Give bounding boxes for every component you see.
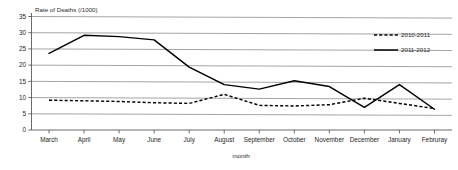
x-tick-label: June [147,136,161,143]
x-tick-label: November [315,136,345,143]
x-tick-label: October [283,136,307,143]
y-tick-label: 25 [19,45,27,52]
series-line-2010-2011 [49,94,434,108]
gridline [32,65,453,67]
x-axis-title: month [232,152,250,159]
legend-label-2010-2011: 2010-2011 [401,31,431,38]
gridline [32,98,453,100]
y-axis-ticks: 05101520253035 [19,13,32,134]
y-tick-label: 15 [19,78,27,85]
x-tick-label: April [78,136,91,144]
y-tick-label: 5 [22,110,26,117]
y-tick-label: 30 [19,29,27,36]
x-tick-label: Februray [422,136,448,144]
x-tick-label: May [113,136,126,144]
legend-label-2011-2012: 2011-2012 [401,46,431,53]
y-tick-label: 0 [22,126,26,133]
x-tick-label: August [214,136,234,144]
y-tick-label: 20 [19,61,27,68]
gridline [32,33,453,35]
x-tick-label: March [40,136,58,143]
x-tick-label: December [350,136,380,143]
y-tick-label: 10 [19,94,27,101]
y-tick-label: 35 [19,13,27,20]
chart-container: 05101520253035 MarchAprilMayJuneJulyAugu… [0,0,458,170]
gridline [32,114,453,116]
chart-title: Rate of Deaths (/1000) [35,6,98,13]
legend: 2010-2011 2011-2012 [374,31,431,53]
line-chart: 05101520253035 MarchAprilMayJuneJulyAugu… [0,0,458,170]
x-tick-label: January [388,136,412,144]
x-tick-label: July [184,136,196,144]
x-tick-label: September [244,136,276,144]
x-axis-ticks: MarchAprilMayJuneJulyAugustSeptemberOcto… [40,130,448,144]
gridline [32,81,453,83]
gridline [32,17,453,19]
